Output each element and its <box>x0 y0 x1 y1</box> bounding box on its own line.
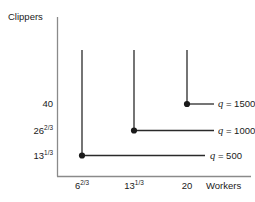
x-tick-label-13-1-3: 131/3 <box>113 181 155 191</box>
isoquant-500-value: 500 <box>226 150 242 161</box>
isoquant-500-q-symbol: q <box>210 150 215 161</box>
isoquant-label-1500: q = 1500 <box>218 99 255 110</box>
x-tick-label-20: 20 <box>170 181 204 191</box>
isoquant-label-1000: q = 1000 <box>218 126 255 137</box>
y-tick-13-base: 13 <box>34 150 45 161</box>
isoquant-chart-figure: Clippers Workers 40 262/3 131/3 62/3 131… <box>0 0 255 202</box>
x-axis-title: Workers <box>206 181 241 191</box>
isoquant-1500-kink-marker <box>184 101 190 107</box>
x-tick-13-base: 13 <box>124 180 135 191</box>
y-tick-label-26-2-3: 262/3 <box>8 126 53 136</box>
isoquant-label-500: q = 500 <box>210 151 242 162</box>
isoquant-1000-kink-marker <box>131 127 137 133</box>
x-tick-20-base: 20 <box>182 180 193 191</box>
isoquant-1000-equals: = <box>226 125 232 136</box>
x-tick-13-superscript: 1/3 <box>135 179 144 186</box>
y-tick-13-superscript: 1/3 <box>44 149 53 156</box>
y-tick-label-40: 40 <box>8 99 53 109</box>
y-tick-40-base: 40 <box>42 98 53 109</box>
y-tick-26-superscript: 2/3 <box>44 124 53 131</box>
y-axis-title: Clippers <box>8 12 43 22</box>
x-tick-label-6-2-3: 62/3 <box>62 181 102 191</box>
isoquant-1000-q-symbol: q <box>218 125 223 136</box>
isoquant-500-equals: = <box>218 150 224 161</box>
isoquant-1500-value: 1500 <box>234 98 255 109</box>
y-tick-label-13-1-3: 131/3 <box>8 151 53 161</box>
x-tick-6-superscript: 2/3 <box>80 179 89 186</box>
isoquant-1500-q-symbol: q <box>218 98 223 109</box>
y-tick-26-base: 26 <box>34 125 45 136</box>
isoquant-1000-value: 1000 <box>234 125 255 136</box>
isoquant-1500-equals: = <box>226 98 232 109</box>
isoquant-500-kink-marker <box>79 152 85 158</box>
